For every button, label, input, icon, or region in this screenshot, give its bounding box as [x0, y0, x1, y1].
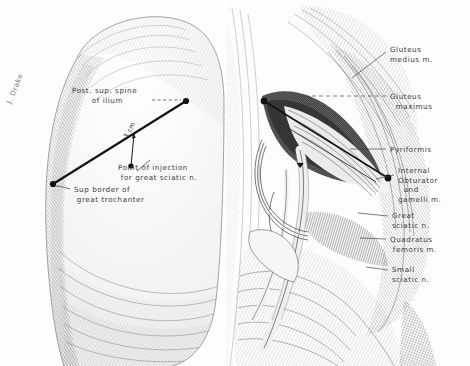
label-gluteus-maximus: Gluteus maximus: [390, 92, 432, 111]
label-post-sup-spine-of-ilium: Post. sup. spine of ilium: [72, 86, 137, 105]
left-surface-drawing: [40, 0, 236, 366]
label-gluteus-medius: Gluteus medius m.: [390, 45, 433, 64]
label-quadratus-femoris: Quadratus femoris m.: [390, 235, 437, 254]
label-sup-border-great-trochanter: Sup border of great trochanter: [74, 185, 145, 204]
label-pyriformis: Pyriformis: [390, 145, 432, 155]
label-internal-obturator-and-gemelli: Internal Obturator and gamelli m.: [398, 166, 441, 204]
label-point-of-injection: Point of injection for great sciatic n.: [118, 163, 197, 182]
label-great-sciatic-nerve: Great sciatic n.: [392, 211, 430, 230]
label-small-sciatic-nerve: Small sciatic n.: [392, 265, 430, 284]
illustration-page: J. Drake Post. sup. spine of ilium Point…: [0, 0, 470, 366]
